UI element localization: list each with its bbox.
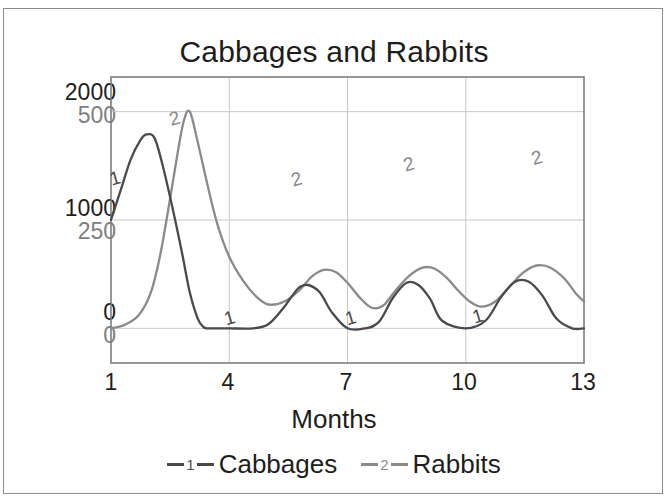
legend-item-rabbits[interactable]: 2 Rabbits (361, 449, 501, 480)
legend-key-rabbits: 2 (361, 456, 407, 473)
legend-dash-left-cabbages (167, 463, 184, 466)
legend-dash-left-rabbits (361, 463, 378, 466)
figure-frame: Cabbages and Rabbits 2000 500 1000 250 0… (3, 8, 663, 494)
plot-area: 12121212 (4, 9, 663, 494)
legend-dash-right-cabbages (197, 463, 214, 466)
series-point-marker-2: 2 (401, 152, 417, 175)
legend-label-rabbits: Rabbits (413, 449, 501, 480)
series-point-marker-2: 2 (288, 168, 304, 191)
legend-marker-rabbits: 2 (380, 456, 388, 473)
legend-dash-right-rabbits (391, 463, 408, 466)
chart-legend: 1 Cabbages 2 Rabbits (4, 449, 663, 480)
legend-key-cabbages: 1 (167, 456, 213, 473)
series-point-marker-1: 1 (470, 305, 486, 328)
series-point-marker-2: 2 (167, 107, 183, 130)
series-point-marker-1: 1 (221, 306, 237, 329)
series-point-marker-2: 2 (529, 146, 545, 169)
series-point-marker-1: 1 (107, 166, 123, 189)
legend-marker-cabbages: 1 (186, 456, 194, 473)
inline-series-markers: 12121212 (107, 107, 545, 329)
legend-label-cabbages: Cabbages (219, 449, 338, 480)
legend-item-cabbages[interactable]: 1 Cabbages (167, 449, 337, 480)
